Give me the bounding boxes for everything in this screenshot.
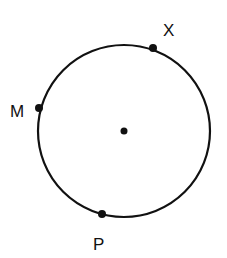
point-p-label: P xyxy=(93,235,104,254)
point-p: P xyxy=(93,210,106,254)
circle-diagram: X M P xyxy=(0,0,227,258)
center-point xyxy=(121,128,128,135)
point-x-label: X xyxy=(163,21,174,40)
point-p-dot xyxy=(98,210,106,218)
point-m-label: M xyxy=(10,102,24,121)
point-m-dot xyxy=(35,104,43,112)
point-x-dot xyxy=(149,44,157,52)
point-x: X xyxy=(149,21,174,52)
